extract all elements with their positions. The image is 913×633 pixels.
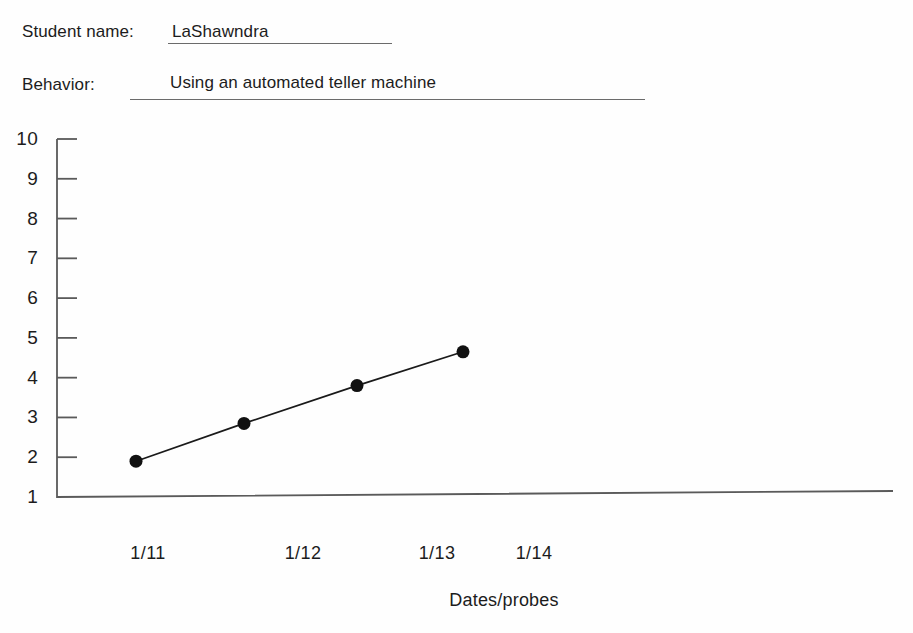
y-axis-tick-label: 10 xyxy=(4,128,38,150)
y-axis-tick-label: 4 xyxy=(4,367,38,389)
data-point xyxy=(457,345,470,358)
chart-svg xyxy=(0,0,913,633)
x-axis-tick-label: 1/12 xyxy=(285,543,322,564)
data-point-markers xyxy=(130,345,470,467)
x-axis-tick-label: 1/13 xyxy=(419,543,456,564)
x-axis-tick-label: 1/14 xyxy=(516,543,553,564)
y-axis-tick-label: 3 xyxy=(4,406,38,428)
x-axis-title: Dates/probes xyxy=(449,590,558,611)
y-axis-tick-label: 1 xyxy=(4,486,38,508)
x-axis-tick-label: 1/11 xyxy=(130,543,165,564)
axis-lines xyxy=(57,139,893,497)
y-axis-ticks xyxy=(57,139,77,457)
data-point xyxy=(351,379,364,392)
progress-line-chart: 10987654321 1/111/121/131/14 Dates/probe… xyxy=(0,0,913,633)
worksheet-page: Student name: LaShawndra Behavior: Using… xyxy=(0,0,913,633)
y-axis-tick-label: 6 xyxy=(4,287,38,309)
y-axis-tick-label: 9 xyxy=(4,168,38,190)
y-axis-tick-label: 2 xyxy=(4,446,38,468)
data-series-line xyxy=(136,352,463,461)
y-axis-tick-label: 8 xyxy=(4,208,38,230)
y-axis-tick-label: 7 xyxy=(4,247,38,269)
y-axis-tick-label: 5 xyxy=(4,327,38,349)
chart-axes xyxy=(57,139,893,497)
data-point xyxy=(130,455,143,468)
data-point xyxy=(238,417,251,430)
